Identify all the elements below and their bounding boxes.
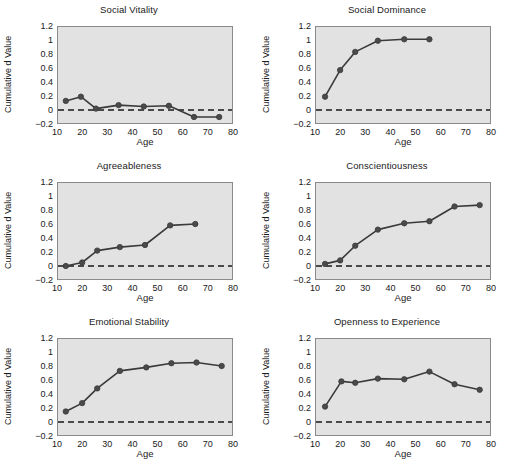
series-overlay (258, 312, 516, 468)
data-point-marker (477, 202, 482, 207)
chart-panel: Social DominanceCumulative d ValueAge1.2… (258, 0, 516, 156)
data-point-marker (169, 361, 174, 366)
data-point-marker (63, 263, 68, 268)
data-point-marker (375, 376, 380, 381)
data-point-marker (353, 49, 358, 54)
series-overlay (258, 0, 516, 156)
data-point-marker (452, 382, 457, 387)
data-line (325, 205, 480, 264)
data-point-marker (95, 248, 100, 253)
data-point-marker (353, 380, 358, 385)
data-point-marker (193, 221, 198, 226)
data-point-marker (191, 114, 196, 119)
data-point-marker (353, 243, 358, 248)
series-overlay (0, 312, 258, 468)
data-point-marker (339, 379, 344, 384)
data-point-marker (116, 102, 121, 107)
data-point-marker (337, 258, 342, 263)
data-point-marker (117, 244, 122, 249)
chart-panel: ConscientiousnessCumulative d ValueAge1.… (258, 156, 516, 312)
data-point-marker (219, 363, 224, 368)
data-point-marker (63, 409, 68, 414)
chart-panel: Emotional StabilityCumulative d ValueAge… (0, 312, 258, 468)
figure-panel-grid: Social VitalityCumulative d ValueAge1.21… (0, 0, 517, 469)
chart-panel: Openness to ExperienceCumulative d Value… (258, 312, 516, 468)
series-overlay (0, 0, 258, 156)
data-point-marker (322, 404, 327, 409)
data-point-marker (79, 400, 84, 405)
data-point-marker (427, 369, 432, 374)
data-point-marker (322, 94, 327, 99)
data-point-marker (167, 223, 172, 228)
data-point-marker (477, 387, 482, 392)
data-point-marker (427, 219, 432, 224)
data-point-marker (95, 386, 100, 391)
data-point-marker (79, 260, 84, 265)
data-point-marker (63, 98, 68, 103)
data-point-marker (216, 114, 221, 119)
data-point-marker (93, 106, 98, 111)
data-line (66, 363, 222, 412)
chart-panel: Social VitalityCumulative d ValueAge1.21… (0, 0, 258, 156)
data-line (66, 224, 195, 266)
data-point-marker (427, 37, 432, 42)
data-point-marker (78, 94, 83, 99)
data-point-marker (402, 221, 407, 226)
data-point-marker (141, 104, 146, 109)
data-point-marker (375, 227, 380, 232)
data-point-marker (117, 368, 122, 373)
data-point-marker (144, 365, 149, 370)
series-overlay (258, 156, 516, 312)
data-point-marker (375, 38, 380, 43)
series-overlay (0, 156, 258, 312)
data-point-marker (142, 242, 147, 247)
chart-panel: AgreeablenessCumulative d ValueAge1.210.… (0, 156, 258, 312)
data-point-marker (194, 360, 199, 365)
data-point-marker (166, 103, 171, 108)
data-point-marker (337, 67, 342, 72)
data-point-marker (402, 37, 407, 42)
data-point-marker (452, 204, 457, 209)
data-point-marker (322, 261, 327, 266)
data-point-marker (402, 377, 407, 382)
